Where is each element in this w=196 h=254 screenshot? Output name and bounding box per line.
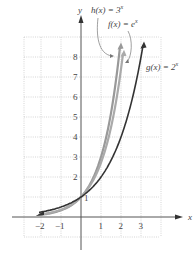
y-tick-label: 7 xyxy=(73,72,78,82)
x-tick-label: −1 xyxy=(55,221,65,231)
curve-arrow-icon xyxy=(141,42,147,49)
curve-h xyxy=(39,47,120,215)
y-tick-label: 5 xyxy=(73,112,78,122)
label-g: g(x) = 2x xyxy=(146,61,179,72)
y-tick-label: 3 xyxy=(73,152,78,162)
x-tick-label: 3 xyxy=(139,221,144,231)
y-tick-label: 6 xyxy=(73,92,78,102)
label-f: f(x) = ex xyxy=(108,18,138,29)
y-intercept-label: 1 xyxy=(84,193,89,203)
x-axis-label: x xyxy=(187,212,192,222)
y-axis-arrow-icon xyxy=(79,15,84,23)
y-tick-label: 8 xyxy=(73,52,78,62)
y-axis-label: y xyxy=(77,5,82,15)
exponential-chart: xy−2−112323456781h(x) = 3xf(x) = exg(x) … xyxy=(0,0,196,254)
y-tick-label: 4 xyxy=(73,132,78,142)
label-h: h(x) = 3x xyxy=(91,4,124,15)
axes xyxy=(12,15,183,250)
x-tick-label: −2 xyxy=(35,221,45,231)
leader-line-f xyxy=(127,31,131,62)
curve-g xyxy=(39,46,143,213)
x-axis-arrow-icon xyxy=(175,215,183,220)
x-tick-label: 1 xyxy=(99,221,104,231)
curve-arrow-icon xyxy=(121,50,127,57)
curves xyxy=(36,42,147,216)
curve-arrow-icon xyxy=(118,43,124,50)
x-tick-label: 2 xyxy=(119,221,124,231)
grid xyxy=(24,37,161,237)
y-tick-label: 2 xyxy=(73,172,78,182)
leader-arrow-icon xyxy=(110,54,114,58)
